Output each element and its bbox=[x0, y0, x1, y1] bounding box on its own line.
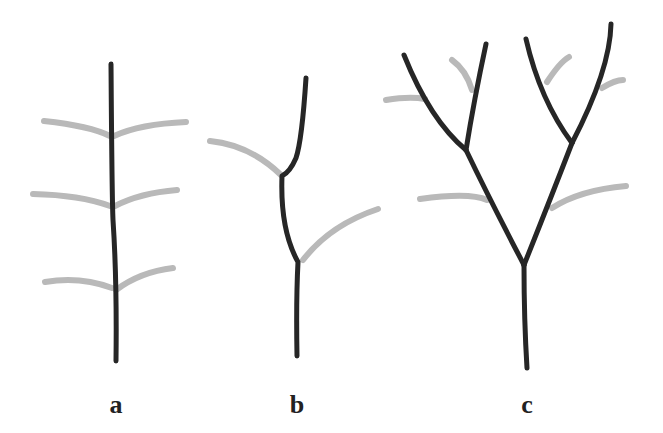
main-axis bbox=[111, 64, 116, 361]
appendage bbox=[115, 190, 177, 206]
appendage bbox=[602, 80, 623, 88]
appendage bbox=[552, 186, 626, 208]
appendage bbox=[114, 122, 186, 136]
appendage bbox=[420, 196, 487, 200]
right-left-branch bbox=[526, 39, 572, 143]
appendage bbox=[45, 280, 112, 288]
main-axis bbox=[282, 78, 306, 356]
panel-a-label: a bbox=[110, 390, 123, 420]
panel-c-label: c bbox=[521, 390, 533, 420]
appendage bbox=[210, 141, 281, 175]
appendage bbox=[547, 57, 569, 82]
left-left-branch bbox=[404, 55, 466, 150]
panel-b-label: b bbox=[290, 390, 304, 420]
panel-b-drawing bbox=[210, 78, 378, 356]
panel-c-drawing bbox=[386, 24, 626, 368]
appendage bbox=[44, 121, 110, 136]
left-right-branch bbox=[466, 44, 486, 150]
appendage bbox=[116, 268, 173, 290]
left-fork bbox=[466, 150, 524, 265]
branching-diagram bbox=[0, 0, 663, 433]
appendage bbox=[386, 98, 425, 100]
appendage bbox=[303, 209, 378, 260]
main-trunk bbox=[524, 265, 527, 368]
appendage bbox=[452, 60, 472, 90]
appendage bbox=[33, 194, 110, 206]
panel-a-drawing bbox=[33, 64, 186, 361]
